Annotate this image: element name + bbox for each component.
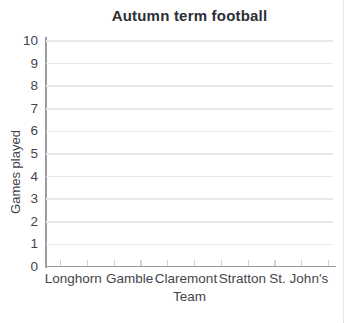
plot-area bbox=[45, 41, 334, 267]
chart-title: Autumn term football bbox=[45, 7, 334, 24]
y-tick-label-8: 8 bbox=[0, 78, 38, 94]
crop-marquee-border bbox=[343, 0, 344, 323]
gridline-y2 bbox=[46, 221, 333, 223]
y-tick-label-3: 3 bbox=[0, 191, 38, 207]
x-tick-mark bbox=[301, 260, 302, 266]
gridline-y3 bbox=[46, 198, 333, 200]
gridline-y1 bbox=[46, 244, 333, 246]
gridline-y5 bbox=[46, 153, 333, 155]
y-tick-label-5: 5 bbox=[0, 146, 38, 162]
x-tick-mark bbox=[248, 260, 249, 266]
x-axis-title: Team bbox=[45, 289, 334, 304]
gridline-y4 bbox=[46, 176, 333, 178]
x-tick-mark bbox=[328, 260, 329, 266]
x-axis-line bbox=[45, 266, 336, 268]
y-tick-label-1: 1 bbox=[0, 236, 38, 252]
x-tick-mark bbox=[140, 260, 141, 266]
x-tick-mark bbox=[167, 260, 168, 266]
gridline-y7 bbox=[46, 108, 333, 110]
gridline-y8 bbox=[46, 85, 333, 87]
x-tick-mark bbox=[194, 260, 195, 266]
y-tick-label-2: 2 bbox=[0, 214, 38, 230]
x-category-label-5: St. John's bbox=[257, 271, 341, 286]
y-tick-label-10: 10 bbox=[0, 33, 38, 49]
x-tick-mark bbox=[114, 260, 115, 266]
x-tick-mark bbox=[87, 260, 88, 266]
y-tick-label-6: 6 bbox=[0, 123, 38, 139]
y-tick-label-9: 9 bbox=[0, 56, 38, 72]
x-tick-mark bbox=[221, 260, 222, 266]
gridline-y9 bbox=[46, 63, 333, 65]
gridline-y10 bbox=[46, 40, 333, 42]
gridline-y6 bbox=[46, 131, 333, 133]
chart-canvas: Autumn term football Games played 012345… bbox=[0, 0, 349, 323]
x-tick-mark bbox=[60, 260, 61, 266]
y-tick-label-7: 7 bbox=[0, 101, 38, 117]
x-tick-mark bbox=[274, 260, 275, 266]
y-tick-label-4: 4 bbox=[0, 169, 38, 185]
